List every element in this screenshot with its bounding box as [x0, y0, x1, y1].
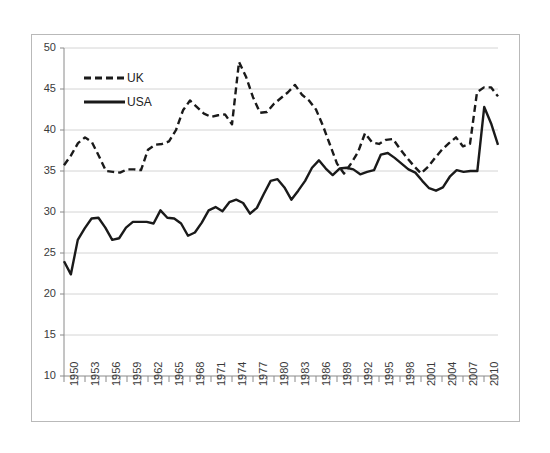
x-tick-label: 1983: [300, 362, 311, 386]
y-tick-label: 30: [30, 206, 56, 217]
y-tick-label: 20: [30, 288, 56, 299]
y-tick-label: 40: [30, 124, 56, 135]
x-tick-label: 1995: [384, 362, 395, 386]
x-tick-label: 1953: [90, 362, 101, 386]
y-tick-label: 15: [30, 329, 56, 340]
x-tick-label: 1986: [321, 362, 332, 386]
x-tick-label: 2004: [447, 362, 458, 386]
x-tick-label: 2010: [489, 362, 500, 386]
x-tick-label: 1962: [153, 362, 164, 386]
y-tick-label: 50: [30, 42, 56, 53]
x-tick-label: 1968: [195, 362, 206, 386]
y-tick-label: 10: [30, 370, 56, 381]
x-tick-label: 1950: [69, 362, 80, 386]
x-tick-label: 1956: [111, 362, 122, 386]
x-tick-label: 1980: [279, 362, 290, 386]
x-tick-label: 1977: [258, 362, 269, 386]
legend-label-usa: USA: [127, 96, 152, 108]
legend-label-uk: UK: [127, 72, 144, 84]
x-tick-label: 2007: [468, 362, 479, 386]
y-tick-label: 45: [30, 83, 56, 94]
chart-figure: 101520253035404550 195019531956195919621…: [0, 0, 550, 453]
x-tick-label: 1989: [342, 362, 353, 386]
x-tick-label: 1965: [174, 362, 185, 386]
x-tick-label: 2001: [426, 362, 437, 386]
x-tick-label: 1974: [237, 362, 248, 386]
x-tick-label: 1998: [405, 362, 416, 386]
y-tick-label: 25: [30, 247, 56, 258]
x-tick-label: 1971: [216, 362, 227, 386]
x-tick-label: 1959: [132, 362, 143, 386]
y-tick-label: 35: [30, 165, 56, 176]
x-tick-label: 1992: [363, 362, 374, 386]
